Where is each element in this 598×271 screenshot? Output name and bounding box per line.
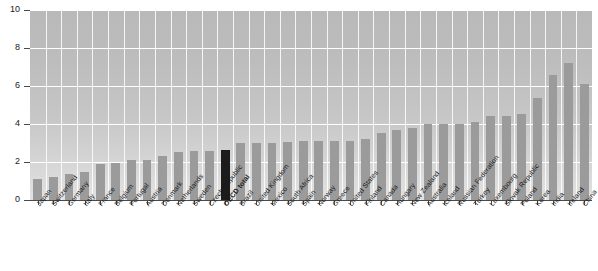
gridline-x — [249, 10, 250, 200]
gridline-x — [124, 10, 125, 200]
gridline-x — [61, 10, 62, 200]
gridline-x — [389, 10, 390, 200]
gridline-x — [467, 10, 468, 200]
gridline-x — [514, 10, 515, 200]
x-axis-labels: JapanSwitzerlandGermanyItalyFranceBelgiu… — [0, 203, 595, 271]
gridline-x — [561, 10, 562, 200]
gridline-x — [576, 10, 577, 200]
gridline-x — [171, 10, 172, 200]
gridline-x — [327, 10, 328, 200]
gridline-x — [217, 10, 218, 200]
gridline-x — [202, 10, 203, 200]
y-tick-label: 6 — [0, 81, 20, 90]
gridline-x — [186, 10, 187, 200]
gridline-x — [545, 10, 546, 200]
y-tick-label: 2 — [0, 157, 20, 166]
gridline-x — [77, 10, 78, 200]
gridline-x — [498, 10, 499, 200]
gridline-x — [358, 10, 359, 200]
y-tick-label: 4 — [0, 119, 20, 128]
gridline-x — [139, 10, 140, 200]
gridline-x — [155, 10, 156, 200]
gridline-x — [311, 10, 312, 200]
gridline-x — [452, 10, 453, 200]
gridline-x — [295, 10, 296, 200]
gridline-x — [342, 10, 343, 200]
gridline-x — [92, 10, 93, 200]
y-tick-label: 10 — [0, 5, 20, 14]
bar — [549, 75, 558, 200]
bar — [580, 84, 589, 200]
gridline-x — [46, 10, 47, 200]
bar — [533, 98, 542, 200]
bar — [564, 63, 573, 200]
y-tick-label: 8 — [0, 43, 20, 52]
gridline-x — [405, 10, 406, 200]
gridline-x — [264, 10, 265, 200]
gridline-x — [108, 10, 109, 200]
gridline-x — [420, 10, 421, 200]
plot-area — [30, 10, 592, 200]
